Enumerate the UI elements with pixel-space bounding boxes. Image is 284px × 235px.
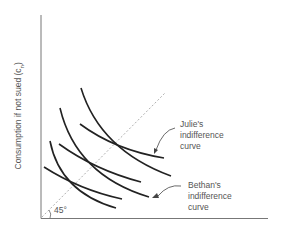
bethan-label-line-3: curve xyxy=(188,202,232,213)
julie-arrow xyxy=(156,128,175,150)
bethan-arrow xyxy=(158,186,181,196)
angle-label: 45° xyxy=(54,205,67,216)
julie-label: Julie's indifference curve xyxy=(180,119,224,152)
y-axis-label-subscript: n xyxy=(19,65,25,68)
julie-label-line-2: indifference xyxy=(180,130,224,141)
julie-label-line-3: curve xyxy=(180,141,224,152)
bethan-arrowhead xyxy=(152,193,159,198)
bethan-label-line-1: Bethan's xyxy=(188,180,232,191)
y-axis-label-text: Consumption if not sued (c xyxy=(13,68,23,169)
julie-label-line-1: Julie's xyxy=(180,119,224,130)
bethan-label: Bethan's indifference curve xyxy=(188,180,232,213)
y-axis-label: Consumption if not sued (cn) xyxy=(13,41,25,191)
bethan-curve-1 xyxy=(50,141,116,208)
indifference-diagram xyxy=(0,0,284,235)
bethan-curve-3 xyxy=(81,88,171,176)
y-axis-label-end: ) xyxy=(13,62,23,65)
angle-arc xyxy=(49,210,51,218)
bethan-label-line-2: indifference xyxy=(188,191,232,202)
julie-curve-3 xyxy=(80,124,164,158)
